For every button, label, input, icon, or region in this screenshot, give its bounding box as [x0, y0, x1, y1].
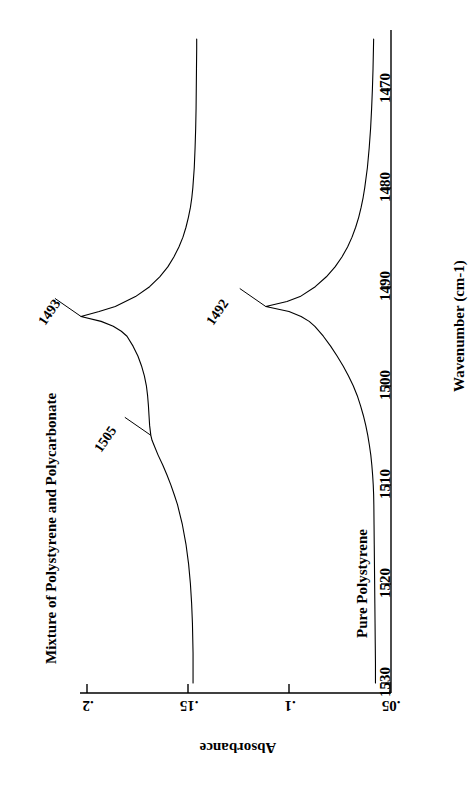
ytick-label-0-2: .2 — [79, 698, 97, 713]
xtick-label-1520: 1520 — [378, 568, 393, 598]
ytick-label-0-15: .15 — [174, 698, 204, 713]
series-caption-mixture: Mixture of Polystyrene and Polycarbonate — [44, 393, 59, 664]
xtick-label-1470: 1470 — [378, 73, 393, 103]
ytick-label-0-05: .05 — [376, 698, 406, 713]
xaxis-title: Wavenumber (cm-1) — [452, 260, 467, 392]
ytick-label-0-1: .1 — [281, 698, 299, 713]
series-layer — [81, 39, 376, 683]
yaxis-title: Absorbance — [173, 740, 303, 755]
ftir-spectrum-figure: 1530 1520 1510 1500 1490 1480 1470 Waven… — [0, 0, 474, 794]
annotation-leader-2 — [240, 289, 266, 307]
xtick-label-1490: 1490 — [378, 271, 393, 301]
series-line-0 — [81, 39, 197, 683]
absorbance-ticks — [87, 684, 390, 693]
plot-canvas — [0, 0, 474, 794]
xtick-label-1500: 1500 — [378, 370, 393, 400]
xtick-label-1510: 1510 — [378, 469, 393, 499]
annotation-leader-1 — [125, 417, 151, 435]
annotation-leader-lines — [55, 289, 266, 436]
xtick-label-1480: 1480 — [378, 172, 393, 202]
xtick-label-1530: 1530 — [378, 667, 393, 697]
series-caption-pure-polystyrene: Pure Polystyrene — [355, 529, 370, 638]
